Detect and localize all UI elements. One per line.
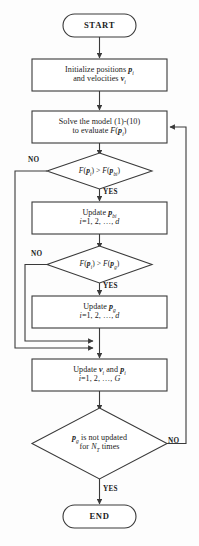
decision-personal-best-shape: [47, 153, 152, 189]
flowchart-canvas: START Initialize positions pi and veloci…: [0, 0, 199, 546]
edge-label-no-termination: NO: [168, 437, 179, 445]
update-velocity-position-shape: [32, 359, 167, 391]
end-shape: [63, 505, 136, 528]
initialize-shape: [32, 59, 167, 91]
edge-label-no-global-best: NO: [31, 250, 42, 258]
edge-label-yes-global-best: YES: [103, 282, 118, 290]
update-personal-best-shape: [32, 202, 167, 234]
solve-model-shape: [32, 111, 167, 143]
edge-label-yes-termination: YES: [103, 485, 118, 493]
update-global-best-shape: [32, 296, 167, 328]
edge-label-yes-personal-best: YES: [103, 188, 118, 196]
flowchart-svg: [0, 0, 199, 546]
decision-global-best-shape: [47, 246, 152, 283]
edge-label-no-personal-best: NO: [28, 156, 39, 164]
start-shape: [63, 14, 136, 37]
decision-termination-shape: [32, 408, 167, 479]
edge-termination-no: [167, 127, 186, 444]
